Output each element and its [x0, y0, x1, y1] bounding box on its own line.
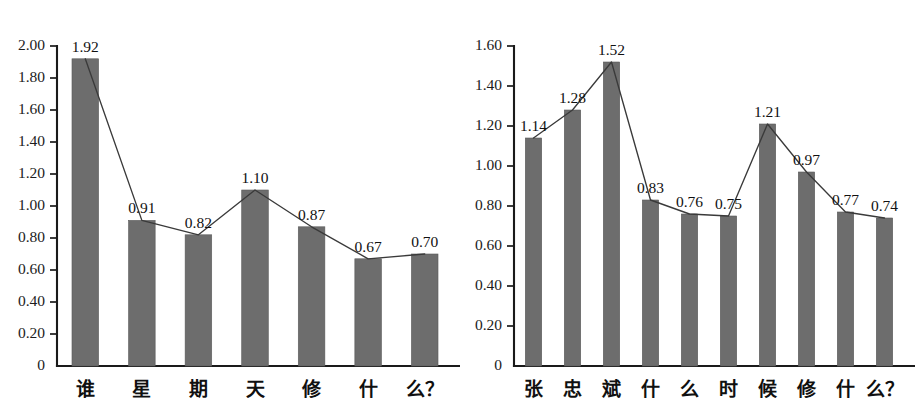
bar[interactable]: [355, 259, 382, 366]
y-axis-tick-label: 1.40: [475, 76, 502, 93]
bar[interactable]: [525, 138, 541, 366]
x-axis-category-label: 忠: [563, 379, 582, 400]
bar[interactable]: [603, 62, 619, 366]
x-axis-category-label: 谁: [76, 378, 95, 400]
bar[interactable]: [185, 235, 212, 366]
y-axis-tick-label: 0: [494, 356, 502, 373]
bar-series: [72, 59, 438, 366]
bar-line-chart-right: 00.200.400.600.801.001.201.401.601.141.2…: [455, 0, 915, 418]
data-value-label: 1.52: [598, 41, 625, 58]
y-axis-tick-label: 0.40: [18, 292, 45, 309]
y-axis-tick-label: 1.20: [18, 164, 45, 181]
y-axis-tick-label: 1.00: [475, 156, 502, 173]
bar[interactable]: [298, 227, 325, 366]
data-value-label: 1.92: [72, 38, 99, 55]
x-axis-category-label: 么？: [406, 379, 444, 400]
y-axis-tick-label: 0.60: [18, 260, 45, 277]
y-axis-tick-label: 0.80: [18, 228, 45, 245]
y-axis-tick-label: 1.80: [18, 68, 45, 85]
y-axis-tick-label: 0.60: [475, 236, 502, 253]
data-value-label: 0.91: [128, 199, 155, 216]
x-axis-category-label: 什: [359, 378, 378, 400]
y-axis-tick-label: 1.60: [18, 100, 45, 117]
chart-panel-left: 00.200.400.600.801.001.201.401.601.802.0…: [0, 0, 460, 418]
y-axis-tick-label: 1.60: [475, 36, 502, 53]
bar[interactable]: [798, 172, 814, 366]
x-axis-category-label: 时: [719, 379, 738, 400]
x-axis-category-label: 星: [132, 379, 151, 400]
bar[interactable]: [642, 200, 658, 366]
y-axis-tick-label: 0.20: [18, 324, 45, 341]
bar[interactable]: [411, 254, 438, 366]
x-axis-category-label: 期: [189, 379, 208, 400]
bar-line-chart-left: 00.200.400.600.801.001.201.401.601.802.0…: [0, 0, 460, 418]
bar[interactable]: [720, 216, 736, 366]
x-axis-category-label: 么？: [866, 379, 904, 400]
data-value-label: 1.28: [559, 89, 586, 106]
y-axis-tick-label: 2.00: [18, 36, 45, 53]
y-axis-tick-label: 1.20: [475, 116, 502, 133]
bar[interactable]: [876, 218, 892, 366]
chart-page: 00.200.400.600.801.001.201.401.601.802.0…: [0, 0, 915, 418]
bar[interactable]: [564, 110, 580, 366]
y-axis-tick-label: 0: [37, 356, 45, 373]
x-axis-category-label: 修: [301, 378, 322, 400]
x-axis-category-label: 斌: [601, 378, 621, 400]
bar[interactable]: [72, 59, 99, 366]
data-value-label: 1.21: [754, 103, 781, 120]
y-axis-ticks: 00.200.400.600.801.001.201.401.60: [475, 36, 514, 373]
bar[interactable]: [837, 212, 853, 366]
x-axis-category-label: 修: [796, 378, 817, 400]
x-axis-category-label: 候: [758, 378, 778, 400]
bar[interactable]: [681, 214, 697, 366]
data-value-label: 0.87: [298, 206, 325, 223]
data-value-label: 1.14: [520, 117, 547, 134]
y-axis-tick-label: 0.20: [475, 316, 502, 333]
data-value-label: 0.74: [871, 197, 898, 214]
data-value-label: 0.97: [793, 151, 820, 168]
x-axis-category-label: 么: [680, 379, 699, 400]
x-axis-category-label: 张: [524, 379, 544, 400]
x-axis-category-label: 什: [836, 378, 855, 400]
x-axis-category-labels: 张忠斌什么时候修什么？: [524, 378, 904, 400]
data-value-label: 0.77: [832, 191, 859, 208]
data-value-label: 0.82: [185, 214, 212, 231]
x-axis-category-label: 天: [246, 379, 266, 400]
bar[interactable]: [759, 124, 775, 366]
x-axis-category-labels: 谁星期天修什么？: [76, 378, 444, 400]
y-axis-tick-label: 1.00: [18, 196, 45, 213]
y-axis-tick-label: 0.80: [475, 196, 502, 213]
data-value-label: 0.75: [715, 195, 742, 212]
bar[interactable]: [242, 190, 269, 366]
data-value-label: 1.10: [241, 169, 268, 186]
data-value-label: 0.76: [676, 193, 703, 210]
data-value-label: 0.70: [411, 233, 438, 250]
chart-panel-right: 00.200.400.600.801.001.201.401.601.141.2…: [455, 0, 915, 418]
y-axis-tick-label: 0.40: [475, 276, 502, 293]
bar[interactable]: [129, 220, 156, 366]
y-axis-tick-label: 1.40: [18, 132, 45, 149]
x-axis-category-label: 什: [641, 378, 660, 400]
data-value-label: 0.67: [355, 238, 382, 255]
bar-series: [525, 62, 892, 366]
data-value-label: 0.83: [637, 179, 664, 196]
y-axis-ticks: 00.200.400.600.801.001.201.401.601.802.0…: [18, 36, 57, 373]
